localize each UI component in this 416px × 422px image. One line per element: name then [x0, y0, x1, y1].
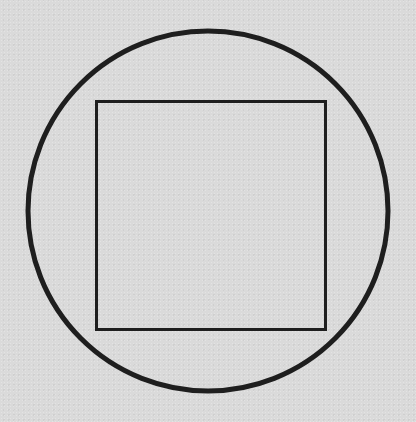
inscribed-square — [97, 102, 326, 330]
outer-circle — [28, 31, 388, 391]
diagram-canvas — [0, 0, 416, 422]
diagram-svg — [0, 0, 416, 422]
